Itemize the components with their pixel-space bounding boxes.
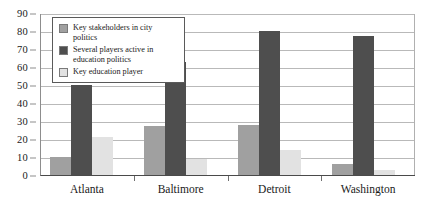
y-tick-mark [30,104,36,105]
y-tick-mark [30,50,36,51]
y-tick-label: 40 [17,99,28,110]
bar [186,159,207,175]
y-tick-label: 60 [17,63,28,74]
y-tick-label: 20 [17,135,28,146]
legend-item: Several players active in education poli… [59,45,177,64]
x-tick-label-washington: Washington [341,184,396,196]
y-tick-mark [30,86,36,87]
bar [353,36,374,175]
y-tick-mark [30,32,36,33]
bar [259,31,280,175]
bar [238,125,259,175]
y-tick-mark [30,122,36,123]
x-tick-label-baltimore: Baltimore [158,184,204,196]
bar [144,126,165,175]
legend: Key stakeholders in city politicsSeveral… [52,17,185,83]
bar-chart: 0102030405060708090 AtlantaBaltimoreDetr… [0,0,427,213]
y-tick-label: 90 [17,9,28,20]
bar-group [332,14,395,175]
bar-group [238,14,301,175]
y-tick-label: 70 [17,45,28,56]
y-tick-label: 30 [17,117,28,128]
bar [71,85,92,175]
bar [92,137,113,175]
y-tick-label: 10 [17,153,28,164]
legend-label: Key education player [73,67,143,77]
y-tick-label: 0 [23,171,28,182]
y-tick-mark [30,14,36,15]
x-tick-mark [321,176,322,181]
bar [374,170,395,175]
legend-label: Key stakeholders in city politics [73,23,177,42]
legend-item: Key education player [59,67,177,77]
y-tick-mark [30,176,36,177]
legend-label: Several players active in education poli… [73,45,177,64]
bar [332,164,353,175]
y-tick-label: 80 [17,27,28,38]
bar [50,157,71,175]
y-tick-mark [30,158,36,159]
legend-swatch-icon [59,24,68,33]
x-tick-label-detroit: Detroit [258,184,291,196]
x-axis: AtlantaBaltimoreDetroitWashington [40,176,415,213]
x-tick-mark [134,176,135,181]
x-tick-label-atlanta: Atlanta [70,184,104,196]
y-tick-mark [30,140,36,141]
y-tick-label: 50 [17,81,28,92]
bar [280,150,301,175]
y-axis: 0102030405060708090 [0,0,40,213]
legend-swatch-icon [59,68,68,77]
y-tick-mark [30,68,36,69]
legend-swatch-icon [59,46,68,55]
legend-item: Key stakeholders in city politics [59,23,177,42]
x-tick-mark [228,176,229,181]
